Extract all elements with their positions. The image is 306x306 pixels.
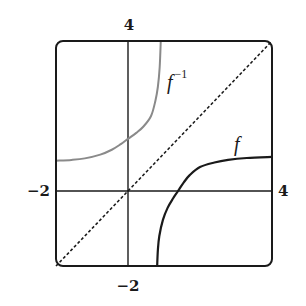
- y-min-label: −2: [116, 277, 139, 295]
- plot-area: [56, 41, 272, 266]
- function-curve: [157, 157, 272, 266]
- f-inverse-superscript: −1: [175, 67, 188, 81]
- f-label: f: [234, 133, 242, 156]
- f-inverse-label: f−1: [167, 67, 187, 94]
- y-max-label: 4: [124, 16, 134, 34]
- viewing-window-frame: [56, 41, 272, 266]
- identity-line: [56, 41, 272, 266]
- inverse-function-curve: [56, 41, 161, 161]
- inverse-function-graph: 4 −2 −2 4 f f−1: [0, 0, 306, 306]
- x-max-label: 4: [278, 182, 288, 200]
- x-min-label: −2: [27, 182, 50, 200]
